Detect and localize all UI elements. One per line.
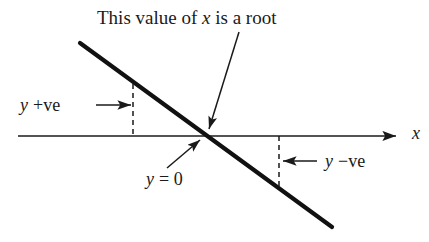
y-negative-variable: y	[325, 151, 333, 171]
y-positive-sign: +ve	[33, 95, 60, 115]
y-positive-variable: y	[20, 95, 28, 115]
y-equals-zero-label: y = 0	[146, 170, 183, 188]
root-illustration-figure: This value of x is a root y +ve y −ve y …	[0, 0, 429, 242]
y-negative-label: y −ve	[325, 152, 365, 170]
root-callout-arrow	[209, 32, 239, 129]
title-text-before: This value of	[97, 7, 202, 28]
title-text-after: is a root	[210, 7, 276, 28]
function-line	[80, 43, 332, 227]
y-zero-variable: y	[146, 169, 154, 189]
x-axis-label: x	[412, 124, 420, 142]
y-negative-sign: −ve	[338, 151, 365, 171]
diagram-canvas	[0, 0, 429, 242]
y-positive-label: y +ve	[20, 96, 60, 114]
y-zero-equals: = 0	[159, 169, 183, 189]
root-title-label: This value of x is a root	[97, 8, 276, 27]
zero-callout-arrow	[167, 140, 200, 168]
